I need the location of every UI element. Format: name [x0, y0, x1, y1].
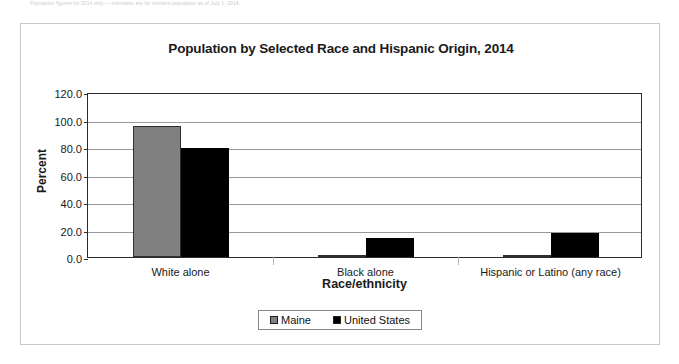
y-tick-label: 0.0	[67, 253, 82, 265]
chart-legend: MaineUnited States	[258, 310, 422, 330]
x-axis-title: Race/ethnicity	[87, 277, 642, 291]
bar-united-states-black-alone	[366, 238, 414, 257]
top-caption-text: Population figures for 2014 only — estim…	[30, 0, 450, 7]
legend-item-united-states[interactable]: United States	[333, 314, 410, 326]
y-tick-mark	[84, 122, 88, 123]
y-tick-label: 20.0	[61, 226, 82, 238]
legend-swatch-icon	[333, 316, 341, 324]
y-tick-mark	[84, 94, 88, 95]
bar-united-states-white-alone	[181, 148, 229, 257]
bar-maine-black-alone	[318, 255, 366, 257]
bar-maine-hispanic-or-latino-any-race-	[503, 255, 551, 257]
y-tick-mark	[84, 177, 88, 178]
category-separator	[273, 257, 274, 265]
legend-swatch-icon	[270, 316, 278, 324]
legend-label: Maine	[281, 314, 311, 326]
y-tick-mark	[84, 149, 88, 150]
y-gridline	[88, 122, 641, 123]
y-tick-mark	[84, 259, 88, 260]
chart-title: Population by Selected Race and Hispanic…	[21, 41, 661, 56]
y-tick-label: 60.0	[61, 171, 82, 183]
plot-area: 0.020.040.060.080.0100.0120.0White alone…	[87, 93, 642, 258]
category-separator	[458, 257, 459, 265]
y-tick-label: 120.0	[54, 88, 82, 100]
y-tick-mark	[84, 204, 88, 205]
y-tick-label: 100.0	[54, 116, 82, 128]
y-tick-label: 40.0	[61, 198, 82, 210]
bar-united-states-hispanic-or-latino-any-race-	[551, 233, 599, 257]
bar-maine-white-alone	[133, 126, 181, 257]
y-tick-label: 80.0	[61, 143, 82, 155]
legend-label: United States	[344, 314, 410, 326]
y-axis-title: Percent	[35, 131, 49, 211]
y-tick-mark	[84, 232, 88, 233]
legend-item-maine[interactable]: Maine	[270, 314, 311, 326]
chart-figure-frame: Population by Selected Race and Hispanic…	[20, 23, 660, 345]
